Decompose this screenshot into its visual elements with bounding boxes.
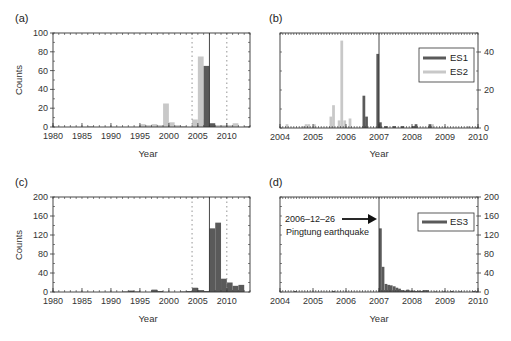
panel-label-b: (b) <box>269 12 282 24</box>
y-tick-label: 120 <box>484 230 499 240</box>
y-tick-label: 160 <box>484 211 499 221</box>
bar-es1 <box>204 66 210 127</box>
x-tick-label: 2005 <box>188 296 208 306</box>
xlabel-c: Year <box>138 313 157 324</box>
bar-es2 <box>307 124 310 128</box>
bar-es1 <box>415 124 418 128</box>
x-tick-label: 2010 <box>468 296 488 306</box>
legend-label-es2: ES2 <box>450 66 468 77</box>
x-tick-label: 2005 <box>303 132 323 142</box>
panel-label-d: (d) <box>269 176 282 188</box>
bar-es3 <box>385 284 388 292</box>
annotation-date: 2006‒12‒26 <box>285 214 335 224</box>
bar-es3 <box>233 286 239 292</box>
ylabel-a: Counts <box>13 65 24 95</box>
bar-es2 <box>192 119 198 127</box>
x-tick-label: 2010 <box>217 296 237 306</box>
plot-frame <box>53 33 250 127</box>
xlabel-b: Year <box>369 148 388 159</box>
bar-es3 <box>227 283 233 293</box>
bar-es2 <box>313 124 316 128</box>
bar-es2 <box>163 104 169 128</box>
x-tick-label: 2005 <box>303 296 323 306</box>
bar-es3 <box>209 228 215 292</box>
y-tick-label: 20 <box>484 85 494 95</box>
legend-label-es3: ES3 <box>450 216 468 227</box>
x-tick-label: 2010 <box>217 131 237 141</box>
bar-es3 <box>396 288 399 292</box>
bar-es3 <box>390 285 393 292</box>
x-tick-label: 2005 <box>188 131 208 141</box>
panel-c: 1980198519901995200020052010040801201602… <box>33 192 250 306</box>
y-tick-label: 80 <box>38 249 48 259</box>
panel-a: 1980198519901995200020052010020406080100 <box>33 28 250 141</box>
bar-es2 <box>330 117 333 128</box>
bar-es3 <box>221 279 227 292</box>
panel-d: 2004200520062007200820092010040801201602… <box>270 192 499 306</box>
x-tick-label: 2007 <box>369 296 389 306</box>
x-tick-label: 1990 <box>101 131 121 141</box>
y-tick-label: 100 <box>33 28 48 38</box>
y-tick-label: 20 <box>38 103 48 113</box>
bar-es2 <box>431 124 434 128</box>
bar-es3 <box>393 286 396 292</box>
x-tick-label: 1995 <box>130 131 150 141</box>
ylabel-c: Counts <box>13 230 24 260</box>
bar-es3 <box>382 267 385 292</box>
y-tick-label: 60 <box>38 66 48 76</box>
arrowhead-icon <box>368 214 377 224</box>
panel-label-c: (c) <box>15 176 28 188</box>
legend-d: ES3 <box>418 213 474 231</box>
y-tick-label: 40 <box>38 268 48 278</box>
y-tick-label: 80 <box>484 249 494 259</box>
x-tick-label: 2009 <box>435 296 455 306</box>
bar-es3 <box>387 285 390 292</box>
bar-es2 <box>305 124 308 128</box>
bar-es1 <box>429 124 432 128</box>
x-tick-label: 1995 <box>130 296 150 306</box>
y-tick-label: 0 <box>484 123 489 133</box>
x-tick-label: 1980 <box>43 296 63 306</box>
y-tick-label: 80 <box>38 47 48 57</box>
bar-es3 <box>215 223 221 292</box>
y-tick-label: 0 <box>43 287 48 297</box>
bar-es1 <box>365 117 368 128</box>
y-tick-label: 200 <box>33 192 48 202</box>
bar-es1 <box>363 96 366 128</box>
y-tick-label: 40 <box>38 84 48 94</box>
bar-es2 <box>332 105 335 128</box>
x-tick-label: 2006 <box>336 296 356 306</box>
bar-es2 <box>338 120 341 128</box>
y-tick-label: 0 <box>484 287 489 297</box>
x-tick-label: 2010 <box>468 132 488 142</box>
y-tick-label: 160 <box>33 211 48 221</box>
x-tick-label: 1990 <box>101 296 121 306</box>
annotation-event: Pingtung earthquake <box>286 227 369 237</box>
x-tick-label: 2007 <box>369 132 389 142</box>
bar-es2 <box>169 122 175 127</box>
x-tick-label: 1980 <box>43 131 63 141</box>
x-tick-label: 2000 <box>159 296 179 306</box>
bar-es3 <box>398 289 401 292</box>
bar-es1 <box>209 123 215 127</box>
bar-es3 <box>238 285 244 292</box>
x-tick-label: 2008 <box>402 132 422 142</box>
x-tick-label: 1985 <box>72 296 92 306</box>
y-tick-label: 200 <box>484 192 499 202</box>
y-tick-label: 40 <box>484 47 494 57</box>
bar-es2 <box>286 124 289 128</box>
x-tick-label: 2004 <box>270 132 290 142</box>
y-tick-label: 120 <box>33 230 48 240</box>
x-tick-label: 2008 <box>402 296 422 306</box>
bar-es2 <box>233 123 239 127</box>
y-tick-label: 40 <box>484 268 494 278</box>
bar-es2 <box>349 119 352 129</box>
y-tick-label: 0 <box>43 122 48 132</box>
x-tick-label: 1985 <box>72 131 92 141</box>
x-tick-label: 2004 <box>270 296 290 306</box>
xlabel-d: Year <box>369 313 388 324</box>
x-tick-label: 2000 <box>159 131 179 141</box>
bar-es2 <box>340 41 343 128</box>
earthquake-annotation: 2006‒12‒26 Pingtung earthquake <box>285 214 377 237</box>
bar-es3 <box>192 288 198 292</box>
